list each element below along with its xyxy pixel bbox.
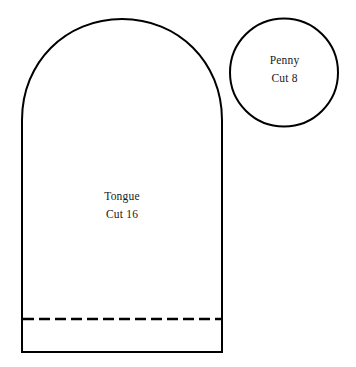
tongue-label-name: Tongue	[22, 187, 222, 205]
penny-label-name: Penny	[230, 51, 339, 69]
pattern-page: Tongue Cut 16 Penny Cut 8	[0, 0, 356, 367]
tongue-shape-outline	[22, 19, 222, 352]
tongue-label: Tongue Cut 16	[22, 187, 222, 223]
penny-label: Penny Cut 8	[230, 51, 339, 87]
penny-label-cut-count: Cut 8	[230, 69, 339, 87]
tongue-label-cut-count: Cut 16	[22, 205, 222, 223]
